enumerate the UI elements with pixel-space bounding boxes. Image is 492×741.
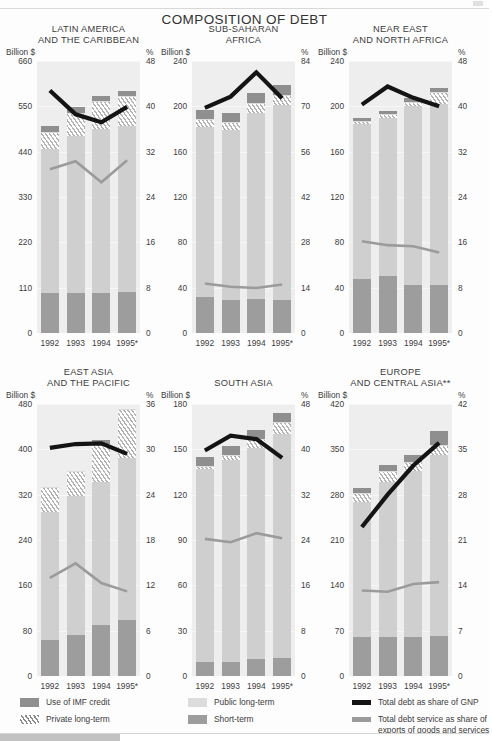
segment-imf-credit xyxy=(404,455,422,463)
chart-title-europe-central-asia: AND CENTRAL ASIA** xyxy=(314,378,487,389)
segment-short-term xyxy=(379,637,397,676)
legend-label-gnp: Total debt as share of GNP xyxy=(378,697,492,708)
y-tick-left-europe-central-asia: 140 xyxy=(315,580,344,590)
segment-private-long-term xyxy=(379,471,397,481)
segment-short-term xyxy=(430,636,448,676)
y-tick-right-europe-central-asia: 7 xyxy=(458,626,482,636)
y-tick-left-europe-central-asia: 210 xyxy=(315,535,344,545)
legend-label-service: Total debt service as share of exports o… xyxy=(378,714,492,735)
segment-imf-credit xyxy=(353,488,371,493)
legend-item-priv: Private long-term xyxy=(20,714,170,725)
legend-label-pub: Public long-term xyxy=(214,697,338,708)
y-tick-right-europe-central-asia: 28 xyxy=(458,490,482,500)
legend-item-pub: Public long-term xyxy=(188,697,338,708)
segment-public-long-term xyxy=(430,455,448,636)
segment-imf-credit xyxy=(379,465,397,471)
segment-private-long-term xyxy=(353,493,371,502)
y-tick-left-europe-central-asia: 70 xyxy=(315,626,344,636)
segment-public-long-term xyxy=(353,502,371,637)
legend-label-short: Short-term xyxy=(214,714,338,725)
bar-europe-central-asia-1994 xyxy=(404,404,422,676)
segment-imf-credit xyxy=(430,431,448,445)
legend-swatch-service-icon xyxy=(352,717,371,722)
segment-short-term xyxy=(353,637,371,676)
legend-item-imf: Use of IMF credit xyxy=(20,697,170,708)
legend-swatch-imf-icon xyxy=(20,698,39,707)
y-tick-right-europe-central-asia: 14 xyxy=(458,580,482,590)
legend-column-1: Use of IMF creditPrivate long-term xyxy=(20,697,170,731)
y-tick-right-europe-central-asia: 0 xyxy=(458,671,482,681)
chart-title-europe-central-asia: EUROPE xyxy=(314,367,487,378)
legend-item-short: Short-term xyxy=(188,714,338,725)
segment-private-long-term xyxy=(404,462,422,471)
segment-public-long-term xyxy=(404,471,422,637)
segment-public-long-term xyxy=(379,482,397,637)
y-tick-left-europe-central-asia: 0 xyxy=(315,671,344,681)
legend-item-service: Total debt service as share of exports o… xyxy=(352,714,492,735)
legend-column-2: Public long-termShort-term xyxy=(188,697,338,731)
x-tick-europe-central-asia: 1995* xyxy=(421,681,457,691)
bar-europe-central-asia-1995 xyxy=(430,404,448,676)
y-tick-left-europe-central-asia: 280 xyxy=(315,490,344,500)
bar-europe-central-asia-1992 xyxy=(353,404,371,676)
legend-swatch-pub-icon xyxy=(188,698,207,707)
legend-item-gnp: Total debt as share of GNP xyxy=(352,697,492,708)
bar-europe-central-asia-1993 xyxy=(379,404,397,676)
bottom-strip xyxy=(0,734,489,741)
y-tick-right-europe-central-asia: 42 xyxy=(458,399,482,409)
legend-swatch-gnp-icon xyxy=(352,700,371,705)
legend-label-imf: Use of IMF credit xyxy=(46,697,170,708)
legend-swatch-short-icon xyxy=(188,715,207,724)
legend-swatch-priv-icon xyxy=(20,715,39,724)
y-tick-left-europe-central-asia: 350 xyxy=(315,444,344,454)
y-tick-right-europe-central-asia: 21 xyxy=(458,535,482,545)
legend-label-priv: Private long-term xyxy=(46,714,170,725)
y-tick-left-europe-central-asia: 420 xyxy=(315,399,344,409)
segment-short-term xyxy=(404,637,422,676)
y-tick-right-europe-central-asia: 35 xyxy=(458,444,482,454)
segment-private-long-term xyxy=(430,445,448,454)
